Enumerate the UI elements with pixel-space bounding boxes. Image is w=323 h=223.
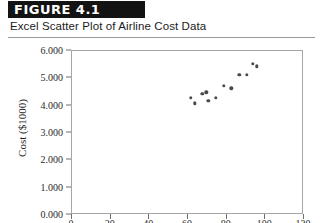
x-tick-mark [264,214,265,219]
y-tick-label: 1.000 [3,181,63,192]
y-tick-label: 4.000 [3,99,63,110]
x-tick-mark [303,214,304,219]
y-tick-mark [66,104,71,105]
y-tick-label: 2.000 [3,154,63,165]
caption-divider [8,37,315,38]
y-tick-mark [66,132,71,133]
y-tick-mark [66,186,71,187]
x-tick-mark [110,214,111,219]
x-tick-mark [226,214,227,219]
plot-area [71,50,303,214]
x-tick-mark [148,214,149,219]
scatter-chart: Cost ($1000) 0.0001.0002.0003.0004.0005.… [0,40,323,223]
y-tick-label: 6.000 [3,45,63,56]
y-tick-mark [66,159,71,160]
y-tick-label: 3.000 [3,127,63,138]
y-tick-label: 0.000 [3,209,63,220]
figure-caption: Excel Scatter Plot of Airline Cost Data [10,20,206,32]
y-tick-mark [66,50,71,51]
x-tick-mark [71,214,72,219]
x-tick-mark [187,214,188,219]
y-tick-label: 5.000 [3,72,63,83]
figure-number-label: FIGURE 4.1 [14,2,100,17]
y-tick-mark [66,77,71,78]
